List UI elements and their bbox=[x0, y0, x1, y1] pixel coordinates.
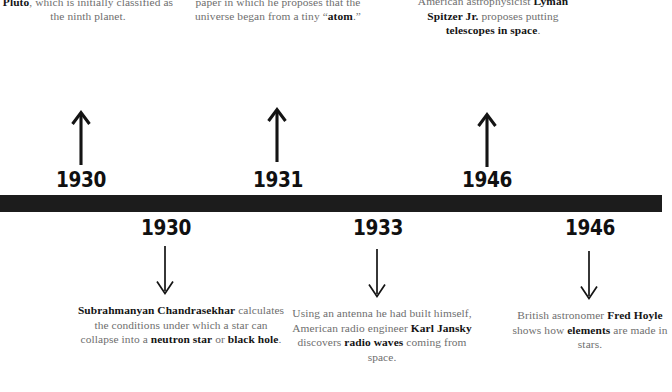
entry-description: Georges Lemaitre publishes a paper in wh… bbox=[194, 0, 362, 24]
entry-description: Subrahmanyan Chandrasekhar calculates th… bbox=[76, 303, 286, 347]
timeline-bar bbox=[0, 195, 662, 212]
arrow-up-icon bbox=[263, 105, 291, 163]
year-label-below: 1933 bbox=[318, 216, 438, 240]
arrow-down-icon bbox=[152, 246, 178, 296]
year-text: 1930 bbox=[28, 168, 134, 192]
year-label-above: 1930 bbox=[21, 168, 141, 192]
year-text: 1946 bbox=[434, 168, 540, 192]
entry-description: American astrophysicist Lyman Spitzer Jr… bbox=[404, 0, 582, 38]
timeline-entry-below-1946: British astronomer Fred Hoyle shows how … bbox=[508, 308, 672, 352]
year-label-below: 1946 bbox=[530, 216, 650, 240]
year-text: 1930 bbox=[113, 216, 219, 240]
year-text: 1946 bbox=[537, 216, 643, 240]
year-label-above: 1931 bbox=[218, 168, 338, 192]
entry-description: Using an antenna he had built himself, A… bbox=[292, 306, 472, 364]
timeline-entry-below-1930: Subrahmanyan Chandrasekhar calculates th… bbox=[76, 303, 286, 347]
year-label-below: 1930 bbox=[106, 216, 226, 240]
arrow-up-icon bbox=[473, 110, 501, 168]
arrow-down-icon bbox=[364, 249, 390, 299]
timeline-entry-below-1933: Using an antenna he had built himself, A… bbox=[292, 306, 472, 364]
entry-description: British astronomer Fred Hoyle shows how … bbox=[508, 308, 672, 352]
year-text: 1933 bbox=[325, 216, 431, 240]
year-label-above: 1946 bbox=[427, 168, 547, 192]
arrow-down-icon bbox=[576, 251, 602, 301]
arrow-up-icon bbox=[67, 108, 95, 166]
year-text: 1931 bbox=[225, 168, 331, 192]
entry-description: At the Lowell Observatory in Arizona, Cl… bbox=[0, 0, 176, 24]
